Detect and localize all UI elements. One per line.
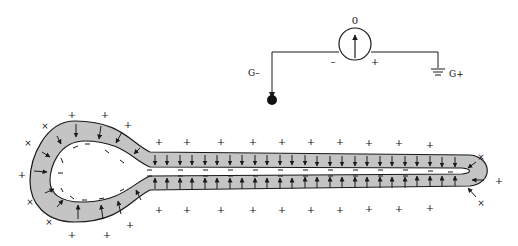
svg-text:+: +: [365, 203, 373, 214]
svg-text:×: ×: [41, 121, 49, 131]
svg-text:+: +: [278, 136, 286, 147]
svg-text:+: +: [336, 204, 344, 215]
svg-text:+: +: [124, 119, 132, 130]
membrane: [30, 121, 487, 222]
electrode-tip-icon: [267, 95, 277, 105]
svg-text:+: +: [426, 202, 434, 213]
svg-text:+: +: [183, 136, 191, 147]
svg-text:+: +: [101, 109, 109, 120]
svg-text:+: +: [155, 136, 163, 147]
svg-text:×: ×: [477, 198, 485, 208]
meter-plus-label: +: [371, 56, 379, 67]
svg-text:+: +: [365, 137, 373, 148]
svg-text:×: ×: [477, 152, 485, 162]
svg-text:+: +: [68, 109, 76, 120]
meter-reading: 0: [352, 15, 358, 26]
svg-text:+: +: [495, 175, 503, 186]
membrane-inner: [50, 141, 470, 202]
meter-minus-label: –: [331, 56, 336, 67]
svg-text:+: +: [307, 204, 315, 215]
wire-right: [371, 52, 438, 68]
svg-text:×: ×: [24, 138, 32, 148]
svg-text:+: +: [395, 203, 403, 214]
left-terminal-label: G–: [248, 68, 260, 78]
svg-text:+: +: [395, 137, 403, 148]
svg-text:+: +: [336, 136, 344, 147]
right-terminal-label: G+: [449, 69, 464, 79]
svg-text:+: +: [217, 136, 225, 147]
svg-text:+: +: [249, 136, 257, 147]
wire-left: [272, 52, 339, 96]
ground-icon: [431, 69, 445, 75]
svg-text:+: +: [217, 204, 225, 215]
svg-text:×: ×: [26, 197, 34, 207]
svg-text:+: +: [68, 229, 76, 240]
svg-text:+: +: [278, 204, 286, 215]
svg-text:+: +: [307, 136, 315, 147]
svg-text:+: +: [249, 204, 257, 215]
circuit: 0 – + G– G+: [248, 15, 464, 105]
svg-text:+: +: [426, 139, 434, 150]
svg-text:+: +: [103, 229, 111, 240]
svg-text:+: +: [18, 169, 26, 180]
svg-text:×: ×: [45, 217, 53, 227]
svg-text:+: +: [126, 219, 134, 230]
diagram-canvas: 0 – + G– G+: [0, 0, 518, 246]
svg-text:+: +: [155, 204, 163, 215]
svg-text:+: +: [183, 204, 191, 215]
